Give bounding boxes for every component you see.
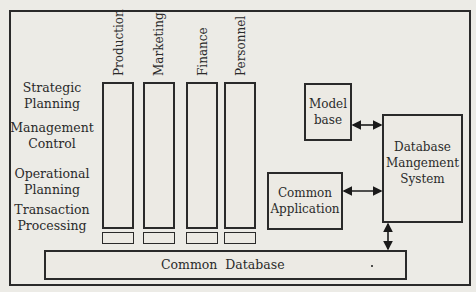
connector-arrows: [0, 0, 476, 292]
